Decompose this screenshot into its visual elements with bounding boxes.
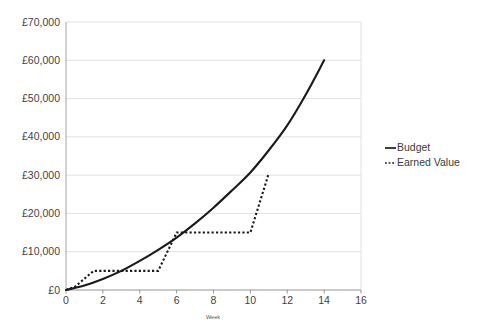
y-axis-tick-label: £30,000 <box>22 169 60 181</box>
y-axis-tick-label: £20,000 <box>22 207 60 219</box>
legend-label-budget: Budget <box>397 141 430 153</box>
x-axis-tick-label: 6 <box>174 294 180 306</box>
x-axis-tick-label: 12 <box>281 294 293 306</box>
y-axis-tick-label: £60,000 <box>22 54 60 66</box>
x-axis-tick-label: 2 <box>100 294 106 306</box>
x-axis-tick-label: 0 <box>63 294 69 306</box>
legend-label-earned-value: Earned Value <box>397 156 460 168</box>
x-axis-title: Week <box>206 314 220 320</box>
y-axis-tick-label: £50,000 <box>22 92 60 104</box>
x-axis-tick-label: 14 <box>318 294 330 306</box>
y-axis-tick-label: £0 <box>48 284 60 296</box>
x-axis-tick-label: 8 <box>211 294 217 306</box>
y-axis-tick-label: £10,000 <box>22 245 60 257</box>
x-axis-tick-label: 4 <box>137 294 143 306</box>
y-axis-tick-label: £70,000 <box>22 16 60 28</box>
y-axis-tick-label: £40,000 <box>22 130 60 142</box>
x-axis-tick-label: 16 <box>355 294 367 306</box>
earned-value-line-chart: £0£10,000£20,000£30,000£40,000£50,000£60… <box>0 0 481 332</box>
x-axis-tick-label: 10 <box>245 294 257 306</box>
chart-container: £0£10,000£20,000£30,000£40,000£50,000£60… <box>0 0 481 332</box>
